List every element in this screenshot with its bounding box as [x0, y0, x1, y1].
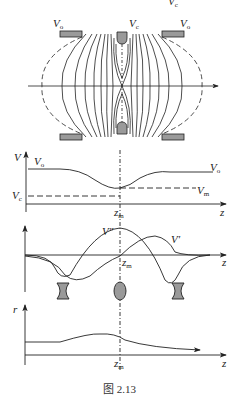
- v-first-label: V′: [171, 234, 180, 245]
- figure-caption: 图 2.13: [0, 380, 239, 396]
- electrode-bottom-left: [60, 134, 82, 140]
- vm-label: Vm: [197, 185, 209, 198]
- potential-curve: [28, 169, 213, 188]
- electrode-top-right: [162, 31, 184, 37]
- z-axis-label-trajectory: z: [222, 358, 226, 369]
- diverging-lens-right: [172, 283, 184, 299]
- ray-trajectory: [25, 334, 200, 350]
- field-lines-panel: [28, 31, 218, 140]
- vo-right-label: Vo: [210, 162, 220, 175]
- top-vc-label: Vc: [168, 0, 178, 9]
- vc-label: Vc: [12, 190, 22, 203]
- einzel-lens-diagram: [0, 0, 239, 403]
- zm-label-trajectory: zm: [114, 358, 124, 371]
- vo-left-label: Vo: [34, 156, 44, 169]
- converging-lens-center: [114, 282, 126, 300]
- electrode-bottom-right: [162, 134, 184, 140]
- electrode-top-left: [60, 31, 82, 37]
- potential-y-axis-label: V: [14, 152, 21, 163]
- trajectory-panel: [25, 305, 226, 365]
- v-second-label: V″: [102, 226, 113, 237]
- zm-label-potential: zm: [114, 207, 124, 220]
- electrode-center-label: Vc: [129, 18, 139, 31]
- z-axis-label-derivative: z: [222, 257, 226, 268]
- electrode-right-label: Vo: [180, 18, 190, 31]
- first-derivative-curve: [25, 236, 210, 280]
- electrode-bottom-center: [117, 122, 127, 134]
- electrode-top-center: [117, 32, 127, 44]
- diverging-lens-left: [57, 283, 69, 299]
- zm-label-derivative: zm: [122, 257, 132, 270]
- electrode-left-label: Vo: [53, 18, 63, 31]
- second-derivative-curve: [25, 228, 210, 283]
- z-axis-label-potential: z: [220, 207, 224, 218]
- trajectory-y-axis-label: r: [13, 304, 17, 315]
